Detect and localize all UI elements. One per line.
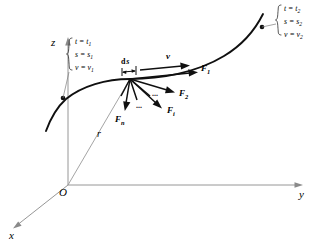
z-axis (65, 37, 71, 185)
end-state-annotation: t = t2 s = s2 v = v2 (262, 4, 303, 40)
velocity-label: v (166, 51, 171, 61)
velocity-vector: v (140, 51, 190, 70)
y-axis (68, 182, 303, 188)
physics-figure: z y x O r t = t1 s = s1 (0, 0, 319, 242)
start-state-line-2: s = s1 (75, 50, 93, 60)
start-state-line-3: v = v1 (75, 63, 94, 73)
origin-label: O (59, 186, 67, 198)
force-ellipsis-lower: ... (136, 101, 142, 110)
displacement-ds-marker: ds (121, 57, 136, 76)
position-vector-label: r (97, 128, 101, 139)
force-vector-group: F1 F2 Fi (114, 63, 210, 126)
end-state-line-2: s = s2 (284, 17, 302, 27)
y-axis-label: y (298, 188, 304, 200)
force-vector-f1: F1 (130, 63, 210, 79)
trajectory-curve (46, 14, 263, 131)
position-vector-r: r (68, 79, 130, 185)
figure-canvas: z y x O r t = t1 s = s1 (0, 0, 319, 242)
start-state-line-1: t = t1 (75, 37, 92, 47)
axis-group: z y x O (8, 36, 304, 241)
end-state-line-3: v = v2 (284, 30, 303, 40)
force-vector-f2: F2 (130, 79, 189, 100)
force-2-label: F2 (178, 88, 189, 100)
force-ellipsis-upper: ... (152, 89, 158, 98)
x-axis-label: x (8, 229, 14, 241)
force-n-label: Fn (114, 114, 125, 126)
displacement-label: ds (121, 57, 129, 66)
end-state-line-1: t = t2 (284, 4, 301, 14)
z-axis-label: z (50, 36, 56, 48)
force-i-label: Fi (166, 105, 175, 117)
